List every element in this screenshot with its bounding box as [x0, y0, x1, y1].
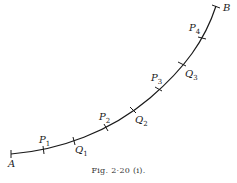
- label-p4: P4: [188, 22, 201, 36]
- figure-caption: Fig. 2·20 (i).: [0, 166, 237, 175]
- label-p1: P1: [38, 134, 50, 148]
- label-p2: P2: [98, 111, 110, 125]
- curve-arc-ab: [11, 6, 216, 154]
- label-b: B: [222, 2, 230, 13]
- label-p3: P3: [150, 72, 162, 86]
- tick-p1: [43, 146, 44, 154]
- label-q1: Q1: [75, 144, 88, 158]
- label-q3: Q3: [185, 68, 198, 82]
- label-q2: Q2: [135, 114, 148, 128]
- curve-diagram: A B P1 Q1 P2 Q2 P3 Q3 P4: [0, 0, 237, 183]
